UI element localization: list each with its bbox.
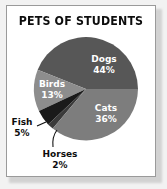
slice-label-dogs-value: 44% [93,65,115,75]
slice-label-fish-name: Fish [12,117,33,127]
slice-label-fish-value: 5% [14,128,29,138]
slice-label-birds-value: 13% [41,90,63,100]
pie-chart-svg: Dogs 44% Cats 36% Birds 13% Fish 5% Hors… [7,6,155,176]
slice-label-dogs-name: Dogs [91,54,116,64]
slice-label-birds-name: Birds [39,79,65,89]
chart-card: PETS OF STUDENTS [6,5,156,177]
slice-label-cats-value: 36% [95,114,117,124]
pie-chart: Dogs 44% Cats 36% Birds 13% Fish 5% Hors… [7,6,155,176]
horses-leader-line [53,130,57,147]
slice-label-horses-value: 2% [52,160,67,170]
slice-label-cats-name: Cats [95,103,117,113]
slice-label-horses-name: Horses [43,149,78,159]
chart-card-inner: PETS OF STUDENTS [7,6,155,176]
fish-leader-line [37,122,46,126]
screenshot-root: PETS OF STUDENTS [0,0,167,189]
